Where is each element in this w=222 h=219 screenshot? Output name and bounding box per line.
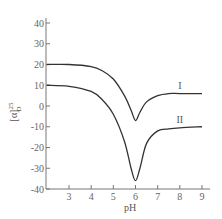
curve-I [47, 64, 202, 120]
svg-text:7: 7 [155, 191, 160, 202]
svg-text:9: 9 [200, 191, 205, 202]
y-ticks: 403020100-10-20-30-40 [31, 18, 50, 195]
svg-text:[α]25D: [α]25D [7, 102, 23, 121]
svg-text:5: 5 [111, 191, 116, 202]
svg-text:20: 20 [34, 59, 44, 70]
x-axis-label: pH [124, 202, 136, 213]
svg-text:-30: -30 [31, 163, 44, 174]
x-ticks: 3456789 [67, 185, 205, 202]
svg-text:4: 4 [89, 191, 94, 202]
optical-rotation-chart: 403020100-10-20-30-40 3456789 III pH [α]… [0, 0, 222, 219]
series-labels: III [176, 80, 183, 124]
svg-text:40: 40 [34, 18, 44, 29]
svg-text:6: 6 [133, 191, 138, 202]
svg-text:-40: -40 [31, 184, 44, 195]
curve-II [47, 85, 202, 180]
svg-text:30: 30 [34, 38, 44, 49]
svg-text:-20: -20 [31, 142, 44, 153]
y-axis-label: [α]25D [7, 102, 23, 121]
svg-text:8: 8 [177, 191, 182, 202]
svg-text:10: 10 [34, 80, 44, 91]
svg-text:-10: -10 [31, 121, 44, 132]
series-label: II [176, 114, 183, 125]
svg-text:3: 3 [67, 191, 72, 202]
svg-text:0: 0 [39, 101, 44, 112]
series-label: I [178, 80, 181, 91]
